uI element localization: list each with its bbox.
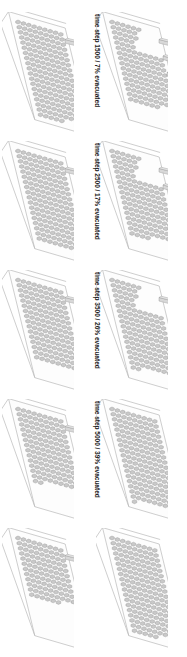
panel-caption: time step 15 / 0% evacuated bbox=[185, 0, 187, 8]
panel-caption: time step 3500 / 26% evacuated bbox=[91, 270, 104, 395]
panel-grid: time step 15 / 0% evacuated time step 10… bbox=[0, 8, 187, 653]
simulation-panel[interactable]: time step 3500 / 26% evacuated bbox=[0, 395, 93, 524]
simulation-panel[interactable]: time step 45 / 1% evacuated bbox=[94, 137, 187, 266]
simulation-panel[interactable]: time step 1000 / 3% evacuated bbox=[0, 8, 93, 137]
isometric-venue-diagram bbox=[2, 399, 74, 521]
panel-caption: time step 45 / 1% evacuated bbox=[185, 12, 187, 137]
isometric-venue-diagram bbox=[2, 270, 74, 392]
isometric-venue-diagram bbox=[96, 399, 168, 521]
simulation-panel[interactable]: time step 75 / 0% evacuated bbox=[94, 266, 187, 395]
simulation-panel[interactable]: time step 150 / 0% evacuated bbox=[94, 395, 187, 524]
isometric-venue-diagram bbox=[2, 528, 74, 650]
panel-caption: time step 2500 / 17% evacuated bbox=[91, 141, 104, 266]
simulation-panel[interactable]: time step 2500 / 17% evacuated bbox=[0, 266, 93, 395]
panel-caption: time step 1000 / 3% evacuated bbox=[91, 0, 104, 8]
isometric-venue-diagram bbox=[96, 528, 168, 650]
simulation-panel[interactable]: time step 15 / 0% evacuated bbox=[94, 8, 187, 137]
isometric-venue-diagram bbox=[96, 12, 168, 134]
isometric-venue-diagram bbox=[96, 141, 168, 263]
panel-caption: time step 150 / 0% evacuated bbox=[185, 270, 187, 395]
simulation-panel[interactable]: time step 5000 / 39% evacuated bbox=[0, 524, 93, 653]
simulation-panel[interactable]: time step 1500 / 7% evacuated bbox=[0, 137, 93, 266]
figure-page: time step 15 / 0% evacuated time step 10… bbox=[0, 0, 187, 657]
isometric-venue-diagram bbox=[96, 270, 168, 392]
isometric-venue-diagram bbox=[2, 12, 74, 134]
simulation-panel[interactable]: time step 500 / 0% evacuated bbox=[94, 524, 187, 653]
panel-caption: time step 75 / 0% evacuated bbox=[185, 141, 187, 266]
isometric-venue-diagram bbox=[2, 141, 74, 263]
panel-caption: time step 1500 / 7% evacuated bbox=[91, 12, 104, 137]
panel-caption: time step 5000 / 39% evacuated bbox=[91, 399, 104, 524]
panel-caption: time step 500 / 0% evacuated bbox=[185, 399, 187, 524]
